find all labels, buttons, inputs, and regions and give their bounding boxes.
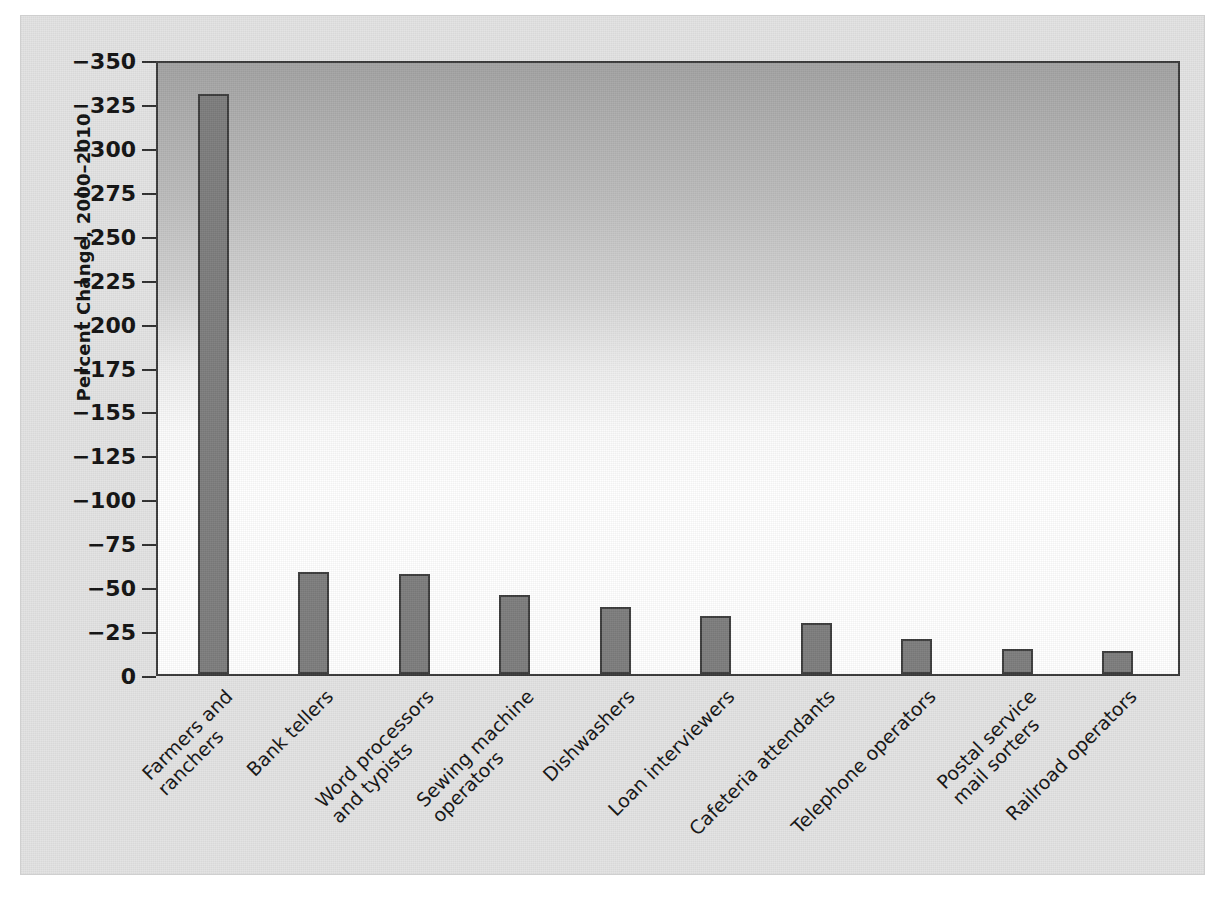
bar: [298, 572, 329, 674]
bar: [1102, 651, 1133, 674]
bar: [1002, 649, 1033, 674]
y-axis: Percent Change, 2000–2010 −350−325−300−2…: [21, 61, 156, 676]
y-axis-tick-label: 0: [121, 664, 136, 689]
y-axis-tick-label: −75: [87, 532, 136, 557]
x-axis-tick: Sewing machineoperators: [513, 679, 523, 689]
y-axis-tick-label: −155: [72, 400, 136, 425]
x-axis-tick: Loan interviewers: [714, 679, 724, 689]
bar: [700, 616, 731, 674]
y-axis-tick-label: −275: [72, 180, 136, 205]
y-axis-tick: [142, 281, 156, 283]
y-axis-tick: [142, 105, 156, 107]
y-axis-tick: [142, 632, 156, 634]
y-axis-tick-label: −350: [72, 49, 136, 74]
x-axis-tick-label: Bank tellers: [242, 685, 338, 781]
y-axis-tick: [142, 237, 156, 239]
y-axis-tick: [142, 588, 156, 590]
x-axis-tick: Cafeteria attendants: [814, 679, 824, 689]
y-axis-tick-label: −250: [72, 224, 136, 249]
x-axis-tick: Dishwashers: [613, 679, 623, 689]
y-axis-tick-label: −300: [72, 136, 136, 161]
y-axis-tick-label: −200: [72, 312, 136, 337]
y-axis-tick-label: −100: [72, 488, 136, 513]
y-axis-tick-label: −225: [72, 268, 136, 293]
x-axis-tick: Word processorsand typists: [412, 679, 422, 689]
x-axis-tick: Telephone operators: [915, 679, 925, 689]
x-axis-tick: Bank tellers: [312, 679, 322, 689]
x-axis-tick: Railroad operators: [1116, 679, 1126, 689]
bar: [600, 607, 631, 674]
x-axis-tick: Postal servicemail sorters: [1015, 679, 1025, 689]
y-axis-tick: [142, 61, 156, 63]
y-axis-tick: [142, 149, 156, 151]
y-axis-tick: [142, 456, 156, 458]
bar: [399, 574, 430, 674]
bar: [901, 639, 932, 674]
chart-figure: Percent Change, 2000–2010 −350−325−300−2…: [20, 15, 1205, 875]
y-axis-tick: [142, 325, 156, 327]
y-axis-tick: [142, 500, 156, 502]
y-axis-tick: [142, 544, 156, 546]
y-axis-tick: [142, 193, 156, 195]
x-axis: Farmers andranchersBank tellersWord proc…: [156, 679, 1180, 874]
bar: [198, 94, 229, 674]
plot-area: [156, 61, 1180, 676]
x-axis-tick-label: Dishwashers: [538, 685, 639, 786]
y-axis-tick: [142, 412, 156, 414]
y-axis-tick: [142, 369, 156, 371]
y-axis-tick-label: −125: [72, 444, 136, 469]
x-axis-tick-label: Farmers andranchers: [138, 685, 253, 800]
y-axis-tick-label: −50: [87, 576, 136, 601]
bar: [801, 623, 832, 674]
y-axis-tick-label: −175: [72, 356, 136, 381]
x-axis-tick: Farmers andranchers: [211, 679, 221, 689]
y-axis-tick-label: −25: [87, 620, 136, 645]
bar: [499, 595, 530, 674]
y-axis-tick: [142, 676, 156, 678]
y-axis-tick-label: −325: [72, 92, 136, 117]
